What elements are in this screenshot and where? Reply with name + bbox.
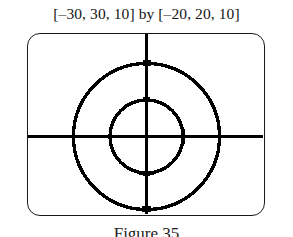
calculator-plot — [28, 34, 263, 214]
window-range-title: [–30, 30, 10] by [–20, 20, 10] — [0, 5, 293, 23]
calculator-screen — [27, 33, 265, 216]
pixel-artifact-bottom-inner — [143, 171, 150, 176]
figure-caption: Figure 35 — [0, 224, 293, 237]
pixel-artifact-top-outer — [143, 60, 151, 66]
pixel-artifact-top-inner — [143, 97, 150, 102]
pixel-artifact-bottom-outer — [142, 206, 151, 212]
